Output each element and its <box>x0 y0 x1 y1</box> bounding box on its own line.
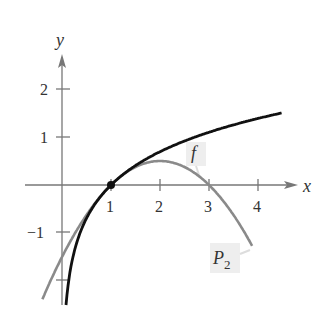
f-curve <box>66 113 282 305</box>
p2-curve-precise <box>42 161 252 299</box>
y-tick-label-1: 1 <box>40 129 48 146</box>
y-axis-label: y <box>54 30 64 50</box>
x-tick-label-2: 2 <box>155 198 163 215</box>
tangency-point <box>107 181 115 189</box>
x-tick-label-3: 3 <box>204 198 212 215</box>
chart: 1 2 3 4 2 1 −1 x y f P2 <box>0 0 327 325</box>
x-axis-label: x <box>302 176 311 196</box>
x-tick-label-1: 1 <box>106 198 114 215</box>
p2-label-leader <box>240 250 250 254</box>
y-tick-label-2: 2 <box>40 81 48 98</box>
y-tick-label-neg1: −1 <box>27 224 44 241</box>
x-tick-label-4: 4 <box>253 198 261 215</box>
